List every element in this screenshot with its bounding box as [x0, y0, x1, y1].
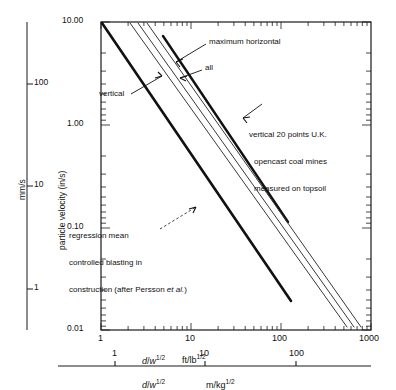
- x-unit-ft-lb-text: ft/lb: [182, 355, 197, 365]
- x2-tick-label-1: 1: [112, 348, 117, 358]
- persson-note-line-3: construction (after Persson et al.): [69, 286, 187, 295]
- annotation-all: all: [205, 64, 213, 73]
- annotation-vertical: vertical: [99, 90, 124, 99]
- mm-tick-label-1: 1: [34, 283, 39, 293]
- arrowhead-persson-note: [189, 207, 196, 213]
- persson-note-line-3-prefix: construction (after Persson: [69, 285, 167, 294]
- y-tick-label-10: 10.00: [62, 16, 83, 26]
- leader-maximum-horizontal: [176, 44, 206, 62]
- y-axis-secondary-title: mm/s: [18, 179, 28, 200]
- x-tick-label-100: 100: [272, 333, 287, 343]
- right-axis-ticks: [362, 22, 371, 330]
- persson-note-line-2: controlled blasting in: [69, 259, 187, 268]
- x-symbol-lower: d/w1/2: [132, 370, 165, 390]
- uk-note-line-2: opencast coal mines: [249, 158, 327, 167]
- x-unit-secondary-exponent: 1/2: [226, 378, 235, 385]
- bottom-axis-ticks: [101, 323, 371, 330]
- persson-note-line-3-suffix: ): [184, 285, 187, 294]
- secondary-x-axis: [58, 361, 371, 366]
- x-symbol-lower-exp: 1/2: [156, 378, 165, 385]
- annotation-leaders: [131, 44, 262, 229]
- x-symbol-upper-exp: 1/2: [156, 354, 165, 361]
- x2-tick-label-100: 100: [289, 348, 304, 358]
- uk-note-line-3: measured on topsoil: [249, 185, 327, 194]
- annotation-maximum-horizontal: maximum horizontal: [209, 38, 281, 47]
- mm-tick-label-100: 100: [34, 78, 48, 88]
- x-unit-m-kg-text: m/kg: [206, 380, 226, 390]
- persson-note-et-al: et al.: [167, 285, 184, 294]
- persson-note-line-1: regression mean: [69, 232, 187, 241]
- y-axis-primary-title: particle velocity (in/s): [58, 171, 68, 250]
- x2-tick-label-10: 10: [199, 348, 209, 358]
- y-tick-label-1: 1.00: [67, 119, 84, 129]
- top-axis-ticks: [101, 22, 367, 29]
- x-axis-secondary-unit: m/kg1/2: [196, 370, 235, 390]
- x-tick-label-1: 1: [98, 333, 103, 343]
- annotation-persson-note: regression mean controlled blasting in c…: [69, 214, 187, 312]
- leader-vertical: [131, 76, 162, 94]
- chart-figure: 10.00 1.00 0.10 0.01 100 10 1 mm/s parti…: [0, 0, 396, 390]
- mm-per-second-axis: [27, 22, 33, 330]
- annotation-uk-note: vertical 20 points U.K. opencast coal mi…: [249, 113, 327, 211]
- x-tick-label-10: 10: [185, 333, 195, 343]
- uk-note-line-1: vertical 20 points U.K.: [249, 131, 327, 140]
- x-tick-label-1000: 1000: [359, 333, 379, 343]
- mm-tick-label-10: 10: [34, 180, 43, 190]
- y-tick-label-0-01: 0.01: [67, 324, 84, 334]
